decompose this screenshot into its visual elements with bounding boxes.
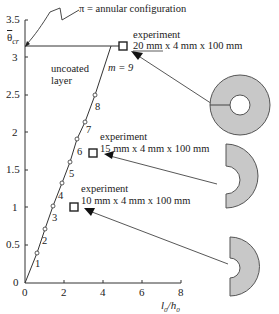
exp10-title: experiment — [81, 183, 128, 194]
y-tick-0.5: 0.5 — [6, 239, 20, 250]
y-tick-3.5: 3.5 — [6, 14, 20, 25]
mode-markers — [35, 93, 97, 255]
annular-ring-shape — [210, 75, 270, 135]
mode-2: 2 — [42, 235, 47, 246]
x-tick-8: 8 — [178, 287, 184, 298]
mode-5: 5 — [69, 168, 74, 179]
pointer-10mm — [92, 212, 228, 264]
arrowhead-10mm-icon — [84, 208, 95, 216]
arrowhead-20mm-icon — [131, 51, 143, 60]
layer-label: layer — [51, 75, 72, 86]
y-tick-2: 2 — [12, 127, 18, 138]
segment-ring-shape — [230, 237, 260, 296]
mode-8: 8 — [95, 101, 100, 112]
mode-4: 4 — [58, 190, 63, 201]
y-tick-1: 1 — [12, 202, 18, 213]
y-axis-label: θcr — [7, 32, 19, 47]
mode-7: 7 — [86, 124, 91, 135]
half-ring-shape — [226, 144, 258, 208]
pointer-15mm — [110, 156, 217, 184]
x-tick-4: 4 — [100, 287, 106, 298]
x-tick-6: 6 — [139, 287, 145, 298]
uncoated-label: uncoated — [51, 63, 89, 74]
exp15-dims: 15 mm x 4 mm x 100 mm — [100, 143, 209, 154]
x-tick-2: 2 — [61, 287, 67, 298]
mode-3: 3 — [52, 212, 57, 223]
exp10-dims: 10 mm x 4 mm x 100 mm — [81, 195, 190, 206]
y-tick-0: 0 — [13, 277, 19, 288]
x-axis-label: l0/h0 — [161, 300, 180, 314]
exp15-title: experiment — [100, 131, 147, 142]
pi-annotation: π = annular configuration — [79, 3, 186, 14]
mode-1: 1 — [35, 258, 40, 269]
exp20-title: experiment — [133, 29, 180, 40]
y-tick-3: 3 — [12, 52, 18, 63]
x-tick-0: 0 — [22, 287, 28, 298]
m9-label: m = 9 — [108, 62, 133, 73]
y-tick-2.5: 2.5 — [6, 89, 20, 100]
exp20-dims: 20 mm x 4 mm x 100 mm — [133, 40, 242, 51]
mode-6: 6 — [77, 146, 82, 157]
pi-note-arrow — [27, 8, 79, 44]
y-tick-1.5: 1.5 — [6, 164, 20, 175]
